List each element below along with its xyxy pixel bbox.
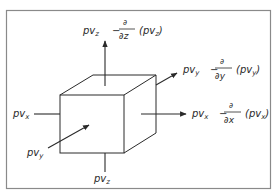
svg-text:∂: ∂ <box>220 57 224 66</box>
svg-text:∂z: ∂z <box>119 31 129 41</box>
cube-front-face <box>60 95 124 153</box>
outflow-x-label: pvx − ∂ ∂x (pvx) <box>191 101 269 125</box>
svg-text:(pvz): (pvz) <box>139 25 163 38</box>
outflow-y-label: pvy − ∂ ∂y (pvy) <box>182 57 260 81</box>
inflow-y-arrow <box>48 125 89 148</box>
cube-top-face <box>60 75 156 95</box>
svg-text:∂y: ∂y <box>215 71 226 81</box>
svg-text:(pvy): (pvy) <box>236 64 260 77</box>
diagram-frame <box>7 11 271 189</box>
svg-text:(pvx): (pvx) <box>245 108 269 121</box>
svg-text:∂: ∂ <box>123 18 127 27</box>
svg-text:pvx: pvx <box>191 108 209 121</box>
inflow-x-label: pvx <box>12 108 30 121</box>
svg-text:∂: ∂ <box>229 101 233 110</box>
svg-text:pvy: pvy <box>182 64 200 77</box>
outflow-z-label: pvz − ∂ ∂z (pvz) <box>82 18 163 41</box>
outflow-y-arrow <box>156 73 177 85</box>
inflow-y-label: pvy <box>26 147 44 160</box>
inflow-z-label: pvz <box>93 173 110 186</box>
control-volume-diagram: pvz − ∂ ∂z (pvz) pvy − ∂ ∂y (pvy) pvx − … <box>0 0 276 195</box>
svg-text:∂x: ∂x <box>224 115 235 125</box>
svg-text:pvz: pvz <box>82 25 99 38</box>
